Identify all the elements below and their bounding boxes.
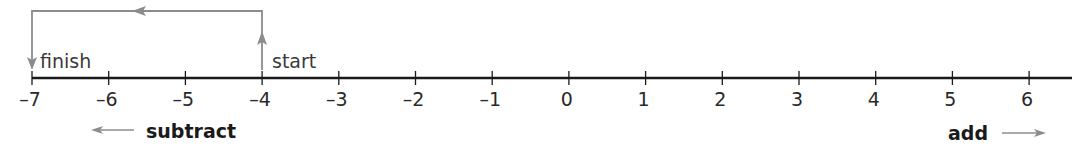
tick-label: –1 xyxy=(470,88,510,110)
tick-label: –6 xyxy=(87,88,127,110)
tick-label: 1 xyxy=(624,88,664,110)
tick-label: 5 xyxy=(930,88,970,110)
tick-label: 0 xyxy=(547,88,587,110)
number-line-diagram: –7–6–5–4–3–2–10123456 start finish subtr… xyxy=(0,0,1075,160)
tick-label: 4 xyxy=(854,88,894,110)
add-label: add xyxy=(948,122,988,144)
tick-label: 2 xyxy=(700,88,740,110)
tick-label: 3 xyxy=(777,88,817,110)
tick-label: –4 xyxy=(240,88,280,110)
finish-label: finish xyxy=(40,50,91,72)
subtract-arrow-icon xyxy=(91,126,134,134)
tick-label: –5 xyxy=(163,88,203,110)
add-arrow-icon xyxy=(1002,129,1046,137)
subtract-label: subtract xyxy=(146,120,236,142)
start-label: start xyxy=(272,50,316,72)
tick-label: 6 xyxy=(1007,88,1047,110)
tick-label: –3 xyxy=(317,88,357,110)
tick-label: –7 xyxy=(10,88,50,110)
tick-label: –2 xyxy=(394,88,434,110)
